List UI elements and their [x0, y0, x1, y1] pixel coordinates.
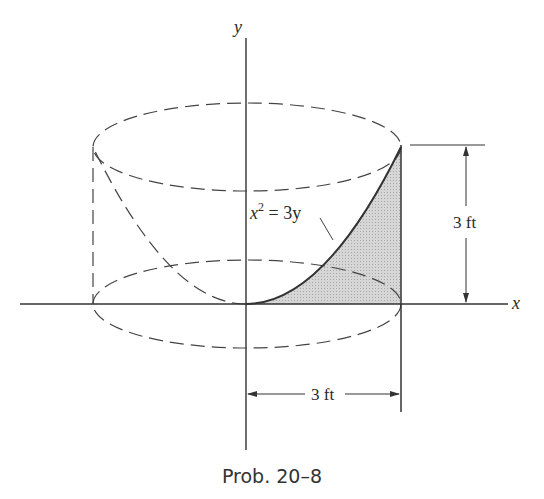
- arrow-up-icon: [463, 146, 469, 156]
- figure-caption: Prob. 20–8: [0, 465, 544, 487]
- arrow-left-icon: [247, 391, 257, 397]
- cylinder-paraboloid-diagram: y x x2 = 3y 3 ft 3 ft: [0, 0, 544, 499]
- height-dimension-label: 3 ft: [453, 213, 476, 232]
- top-ellipse: [93, 103, 401, 191]
- y-axis-label: y: [232, 17, 242, 37]
- arrow-down-icon: [463, 293, 469, 303]
- x-axis-label: x: [511, 293, 520, 313]
- arrow-right-icon: [390, 391, 400, 397]
- curve-label-leader: [320, 218, 333, 240]
- radius-dimension-label: 3 ft: [311, 385, 334, 404]
- curve-equation-label: x2 = 3y: [249, 200, 301, 223]
